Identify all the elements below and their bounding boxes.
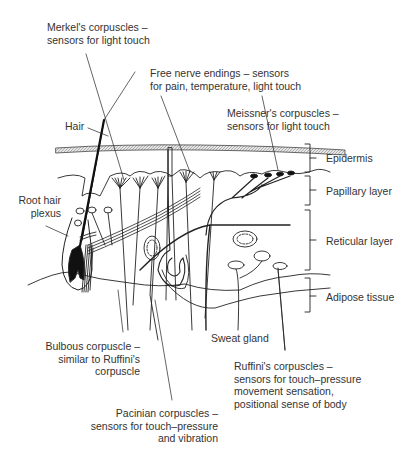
label-line: Root hair xyxy=(10,194,61,207)
label-line: and vibration xyxy=(88,432,218,445)
sweat-gland-coil xyxy=(158,150,185,286)
layer-label-epidermis: Epidermis xyxy=(326,152,373,165)
bracket-reticular xyxy=(305,210,316,270)
ruffini-corpuscle-1 xyxy=(228,261,244,269)
hair-bulb xyxy=(68,245,84,282)
label-line: Pacinian corpuscles – xyxy=(88,407,218,420)
ruffini-corpuscle-2 xyxy=(254,251,270,261)
pacinian-corpuscle xyxy=(144,236,160,260)
label-line: sensors for light touch xyxy=(47,34,150,47)
label-line: Bulbous corpuscle – xyxy=(44,340,140,353)
label-line: positional sense of body xyxy=(234,398,361,411)
label-line: Meissner's corpuscles – xyxy=(227,107,339,120)
label-line: sensors for touch–pressure xyxy=(88,420,218,433)
root-hair-plexus-nerves xyxy=(82,245,93,292)
label-merkel-corpuscles: Merkel's corpuscles – sensors for light … xyxy=(47,21,150,46)
adipose-boundary xyxy=(165,282,330,308)
label-sweat-gland: Sweat gland xyxy=(211,332,269,345)
merkel-fan-5 xyxy=(210,172,220,180)
bracket-adipose xyxy=(305,278,316,312)
label-pacinian-corpuscles: Pacinian corpuscles – sensors for touch–… xyxy=(88,407,218,445)
label-line: corpuscle xyxy=(44,365,140,378)
label-bulbous-corpuscle: Bulbous corpuscle – similar to Ruffini's… xyxy=(44,340,140,378)
label-ruffini-corpuscles: Ruffini's corpuscles – sensors for touch… xyxy=(234,360,361,410)
label-line: plexus xyxy=(10,207,61,220)
layer-label-reticular: Reticular layer xyxy=(326,235,393,248)
label-line: similar to Ruffini's xyxy=(44,353,140,366)
ruffini-corpuscle-3 xyxy=(273,263,287,270)
label-line: Merkel's corpuscles – xyxy=(47,21,150,34)
merkel-fan-4 xyxy=(180,171,194,182)
merkel-fan-1 xyxy=(112,178,130,188)
label-line: Ruffini's corpuscles – xyxy=(234,360,361,373)
meissner-corpuscle-4 xyxy=(288,171,295,175)
dermal-nerve xyxy=(140,225,290,330)
meissner-corpuscle-3 xyxy=(277,172,284,176)
label-line: sensors for touch–pressure xyxy=(234,373,361,386)
bracket-papillary xyxy=(305,176,316,205)
merkel-fan-3 xyxy=(152,176,165,188)
meissner-corpuscle-1 xyxy=(251,174,258,178)
label-free-nerve-endings: Free nerve endings – sensors for pain, t… xyxy=(150,67,301,92)
label-line: sensors for light touch xyxy=(227,120,339,133)
label-line: movement sensation, xyxy=(234,385,361,398)
layer-label-adipose: Adipose tissue xyxy=(326,291,394,304)
label-line: for pain, temperature, light touch xyxy=(150,80,301,93)
free-nerve-ending xyxy=(168,148,172,176)
label-hair: Hair xyxy=(65,120,84,133)
label-line: Free nerve endings – sensors xyxy=(150,67,301,80)
label-meissner-corpuscles: Meissner's corpuscles – sensors for ligh… xyxy=(227,107,339,132)
meissner-nerve xyxy=(206,176,290,235)
label-root-hair-plexus: Root hair plexus xyxy=(10,194,61,219)
meissner-corpuscle-2 xyxy=(265,173,272,177)
layer-label-papillary: Papillary layer xyxy=(326,185,392,198)
merkel-fan-2 xyxy=(133,176,148,188)
